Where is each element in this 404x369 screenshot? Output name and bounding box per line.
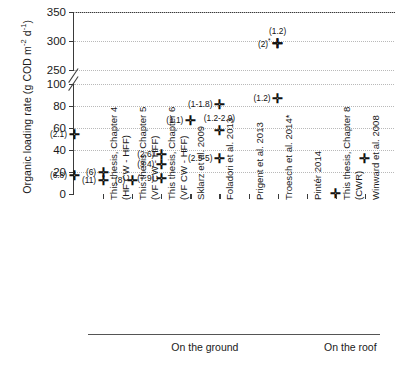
x-category-label: Sklarz et al. 2009 — [195, 126, 207, 200]
data-point-marker: ✛ — [214, 97, 225, 110]
x-category-label-line1: This thesis, Chapter 6 — [166, 107, 177, 200]
y-tick-label: 0 — [60, 188, 66, 200]
gridline — [74, 84, 394, 85]
x-tick — [278, 194, 279, 199]
x-category-label-line1: Foladori et al. 2013 — [224, 118, 235, 200]
x-category-label: This thesis, Chapter 8(CWR) — [341, 107, 364, 200]
data-point-marker: ✛ — [69, 169, 80, 182]
x-tick — [132, 194, 133, 199]
y-tick — [69, 70, 74, 71]
x-category-label-line1: Troesch et al. 2014* — [283, 114, 294, 200]
group-bracket-line — [88, 334, 322, 335]
y-tick-label: 40 — [53, 144, 66, 156]
gridline — [74, 12, 394, 13]
x-category-label-line2: (HF CW - HFF) — [120, 107, 132, 200]
group-bracket-label: On the ground — [88, 341, 322, 353]
y-tick — [69, 41, 74, 42]
x-category-label-line1: Prigent et al. 2013 — [254, 122, 265, 200]
x-tick — [161, 194, 162, 199]
chart-figure: Organic loading rate (g COD m-2 d-1) 020… — [0, 0, 404, 369]
x-tick — [365, 194, 366, 199]
x-category-label: Foladori et al. 2013 — [224, 118, 236, 200]
x-category-label-line1: Sklarz et al. 2009 — [195, 126, 206, 200]
y-tick-label: 80 — [53, 100, 66, 112]
x-tick — [307, 194, 308, 199]
data-point-marker: ✛ — [272, 92, 283, 105]
data-point-label: (1-1.8) — [188, 99, 212, 109]
data-point-marker: ✛ — [69, 127, 80, 140]
x-category-label-line2: (CWR) — [352, 107, 364, 200]
data-point-marker: ✛ — [98, 173, 109, 186]
gridline — [74, 70, 394, 71]
y-tick-label: 100 — [47, 78, 66, 90]
group-bracket-line — [321, 334, 380, 335]
x-tick — [336, 194, 337, 199]
data-point-label: (11) — [82, 175, 96, 185]
data-point-marker: ✛ — [272, 36, 283, 49]
data-point-label: (6.8) — [50, 170, 67, 180]
y-tick — [69, 150, 74, 151]
gridline — [74, 41, 394, 42]
x-tick — [219, 194, 220, 199]
y-tick — [69, 12, 74, 13]
x-category-label: Pintér 2014 — [312, 151, 324, 200]
x-category-label-line1: Winward et al. 2008 — [370, 115, 381, 200]
x-tick — [249, 194, 250, 199]
y-tick-label: 350 — [47, 6, 66, 18]
x-category-label-line1: Pintér 2014 — [312, 151, 323, 200]
x-category-label-line1: This thesis, Chapter 8 — [341, 107, 352, 200]
x-category-label: This thesis, Chapter 5(VF CW - HFF) — [137, 107, 160, 200]
data-point-label: (2.1) — [50, 129, 67, 139]
x-tick — [190, 194, 191, 199]
x-category-label: Troesch et al. 2014* — [283, 114, 295, 200]
y-tick — [69, 194, 74, 195]
x-category-label-line2: (VF CW - HFF) — [149, 107, 161, 200]
x-category-label: This thesis, Chapter 4(HF CW - HFF) — [108, 107, 131, 200]
x-category-label: This thesis, Chapter 6(VF CW - HFF) — [166, 107, 189, 200]
y-axis-title: Organic loading rate (g COD m-2 d-1) — [19, 2, 33, 212]
x-category-label-line2: (VF CW - HFF) — [178, 107, 190, 200]
group-bracket-label: On the roof — [321, 341, 380, 353]
x-category-label: Prigent et al. 2013 — [254, 122, 266, 200]
y-tick-label: 300 — [47, 35, 66, 47]
x-category-label: Winward et al. 2008 — [370, 115, 382, 200]
y-tick — [69, 106, 74, 107]
data-point-label: (2)* — [258, 37, 271, 49]
data-point-label: (1.2) — [269, 26, 286, 36]
y-tick-label: 250 — [47, 64, 66, 76]
data-point-label: (1.2) — [254, 93, 271, 103]
x-tick — [103, 194, 104, 199]
x-category-label-line1: This thesis, Chapter 5 — [137, 107, 148, 200]
x-category-label-line1: This thesis, Chapter 4 — [108, 107, 119, 200]
